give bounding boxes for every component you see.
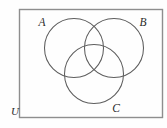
- set-circle-a: [45, 19, 104, 78]
- universal-set-label: U: [11, 105, 20, 117]
- set-label-a: A: [37, 16, 46, 28]
- set-circle-c: [65, 45, 124, 104]
- set-label-c: C: [112, 102, 120, 114]
- venn-diagram-canvas: A B C U: [0, 0, 167, 128]
- set-label-b: B: [139, 16, 146, 28]
- set-circle-b: [85, 19, 144, 78]
- venn-diagram-figure: A B C U: [0, 0, 167, 128]
